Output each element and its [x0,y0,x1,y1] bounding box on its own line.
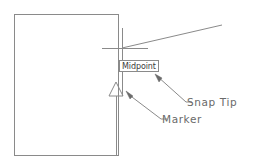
marker-arrowhead-icon [126,91,133,99]
diagram-canvas: Midpoint Snap Tip Marker [0,0,256,163]
snap-tip-leader-line [157,76,186,102]
object-diagonal-line [122,25,222,48]
diagram-vector-layer [0,0,256,163]
marker-leader-line [128,94,161,119]
snap-tooltip-label: Midpoint [122,62,156,71]
marker-callout-label: Marker [162,113,202,125]
snap-tip-arrowhead-icon [155,74,162,82]
midpoint-marker-triangle [109,82,123,96]
snap-tooltip: Midpoint [119,60,159,72]
snap-tip-callout-label: Snap Tip [187,96,237,108]
object-rectangle [15,15,119,156]
